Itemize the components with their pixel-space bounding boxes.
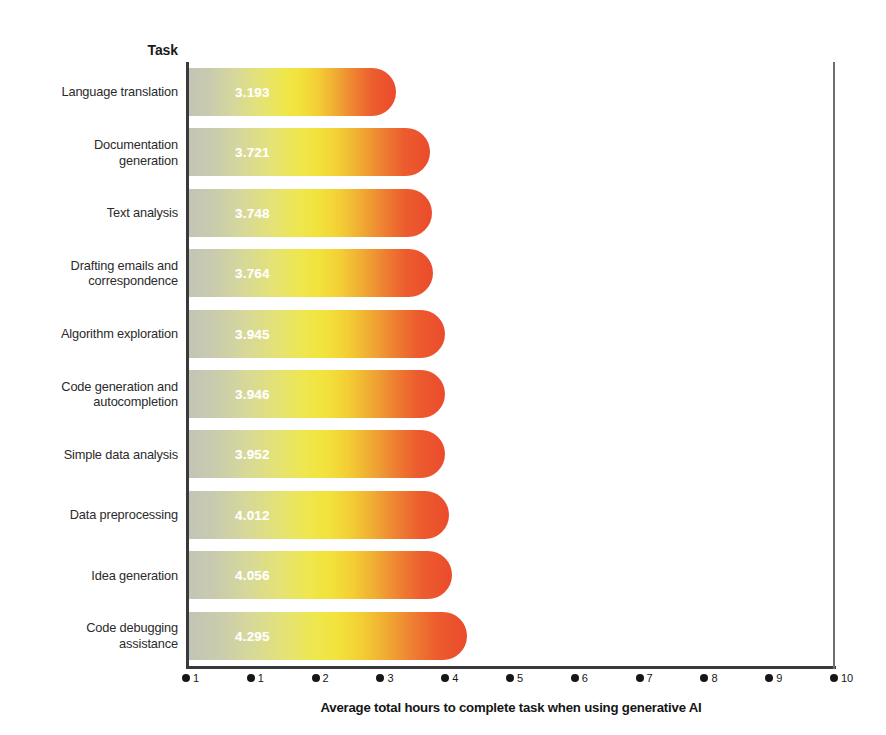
tick-dot-icon bbox=[441, 674, 449, 682]
bar[interactable]: 3.946 bbox=[189, 370, 445, 418]
x-axis-tick-label: 2 bbox=[323, 672, 329, 684]
tick-dot-icon bbox=[830, 674, 838, 682]
bar-row: Data preprocessing4.012 bbox=[0, 485, 886, 545]
bar-value-label: 3.945 bbox=[235, 326, 270, 341]
tick-dot-icon bbox=[636, 674, 644, 682]
bar-chart: Task Language translation3.193Documentat… bbox=[0, 0, 886, 735]
x-axis-tick-label: 10 bbox=[841, 672, 853, 684]
bar-row: Drafting emails and correspondence3.764 bbox=[0, 243, 886, 303]
x-axis-tick: 9 bbox=[765, 672, 782, 684]
bar-row-label: Documentation generation bbox=[0, 137, 178, 168]
x-axis-tick: 10 bbox=[830, 672, 853, 684]
x-axis-tick-label: 7 bbox=[647, 672, 653, 684]
x-axis-title: Average total hours to complete task whe… bbox=[186, 700, 836, 715]
x-axis-tick-label: 5 bbox=[517, 672, 523, 684]
x-axis-tick: 4 bbox=[441, 672, 458, 684]
x-axis-line bbox=[186, 666, 836, 669]
bar[interactable]: 3.945 bbox=[189, 310, 445, 358]
bar-row-label: Algorithm exploration bbox=[0, 326, 178, 342]
bar-row: Text analysis3.748 bbox=[0, 183, 886, 243]
x-axis-tick: 7 bbox=[636, 672, 653, 684]
bar-track: 3.193 bbox=[189, 62, 886, 122]
tick-dot-icon bbox=[312, 674, 320, 682]
x-axis-tick: 1 bbox=[247, 672, 264, 684]
x-axis-tick-label: 3 bbox=[387, 672, 393, 684]
bar-value-label: 3.748 bbox=[235, 205, 270, 220]
bar-track: 3.952 bbox=[189, 424, 886, 484]
x-axis-ticks: 112345678910 bbox=[186, 672, 836, 694]
bar-row: Language translation3.193 bbox=[0, 62, 886, 122]
bar-track: 3.721 bbox=[189, 122, 886, 182]
bar[interactable]: 4.012 bbox=[189, 491, 449, 539]
bar-row-label: Code debugging assistance bbox=[0, 620, 178, 651]
bar-row-label: Language translation bbox=[0, 84, 178, 100]
bar-track: 4.295 bbox=[189, 606, 886, 666]
x-axis-tick: 5 bbox=[506, 672, 523, 684]
bar-row: Simple data analysis3.952 bbox=[0, 424, 886, 484]
bar[interactable]: 3.193 bbox=[189, 68, 396, 116]
bar-value-label: 3.193 bbox=[235, 85, 270, 100]
bar-row: Idea generation4.056 bbox=[0, 545, 886, 605]
tick-dot-icon bbox=[765, 674, 773, 682]
bar[interactable]: 4.056 bbox=[189, 551, 452, 599]
x-axis-tick-label: 1 bbox=[193, 672, 199, 684]
bar[interactable]: 3.748 bbox=[189, 189, 432, 237]
bar-row-label: Drafting emails and correspondence bbox=[0, 258, 178, 289]
x-axis-tick: 2 bbox=[312, 672, 329, 684]
tick-dot-icon bbox=[700, 674, 708, 682]
bar-row: Code generation and autocompletion3.946 bbox=[0, 364, 886, 424]
bar[interactable]: 4.295 bbox=[189, 612, 467, 660]
bar[interactable]: 3.952 bbox=[189, 430, 445, 478]
bar-track: 4.012 bbox=[189, 485, 886, 545]
x-axis-tick-label: 9 bbox=[776, 672, 782, 684]
bar-row: Code debugging assistance4.295 bbox=[0, 606, 886, 666]
bar-value-label: 3.721 bbox=[235, 145, 270, 160]
bar-row-label: Text analysis bbox=[0, 205, 178, 221]
bar[interactable]: 3.764 bbox=[189, 249, 433, 297]
x-axis-tick-label: 4 bbox=[452, 672, 458, 684]
bar-track: 4.056 bbox=[189, 545, 886, 605]
bar-row-label: Simple data analysis bbox=[0, 447, 178, 463]
bar-value-label: 4.056 bbox=[235, 568, 270, 583]
x-axis-tick-label: 6 bbox=[582, 672, 588, 684]
bar-row-label: Idea generation bbox=[0, 568, 178, 584]
bar-track: 3.764 bbox=[189, 243, 886, 303]
bar-track: 3.748 bbox=[189, 183, 886, 243]
x-axis-tick: 8 bbox=[700, 672, 717, 684]
bar-value-label: 3.952 bbox=[235, 447, 270, 462]
x-axis-tick-label: 8 bbox=[711, 672, 717, 684]
tick-dot-icon bbox=[247, 674, 255, 682]
task-column-header: Task bbox=[0, 42, 178, 58]
tick-dot-icon bbox=[182, 674, 190, 682]
bar-value-label: 4.012 bbox=[235, 507, 270, 522]
bar-track: 3.946 bbox=[189, 364, 886, 424]
bar-track: 3.945 bbox=[189, 304, 886, 364]
tick-dot-icon bbox=[376, 674, 384, 682]
bar-rows: Language translation3.193Documentation g… bbox=[0, 62, 886, 666]
bar-row-label: Code generation and autocompletion bbox=[0, 379, 178, 410]
x-axis-tick: 3 bbox=[376, 672, 393, 684]
tick-dot-icon bbox=[571, 674, 579, 682]
tick-dot-icon bbox=[506, 674, 514, 682]
x-axis-tick-label: 1 bbox=[258, 672, 264, 684]
bar-value-label: 3.764 bbox=[235, 266, 270, 281]
bar-value-label: 3.946 bbox=[235, 386, 270, 401]
bar-value-label: 4.295 bbox=[235, 628, 270, 643]
bar-row: Documentation generation3.721 bbox=[0, 122, 886, 182]
x-axis-tick: 6 bbox=[571, 672, 588, 684]
bar[interactable]: 3.721 bbox=[189, 128, 430, 176]
x-axis-tick: 1 bbox=[182, 672, 199, 684]
bar-row-label: Data preprocessing bbox=[0, 507, 178, 523]
bar-row: Algorithm exploration3.945 bbox=[0, 304, 886, 364]
